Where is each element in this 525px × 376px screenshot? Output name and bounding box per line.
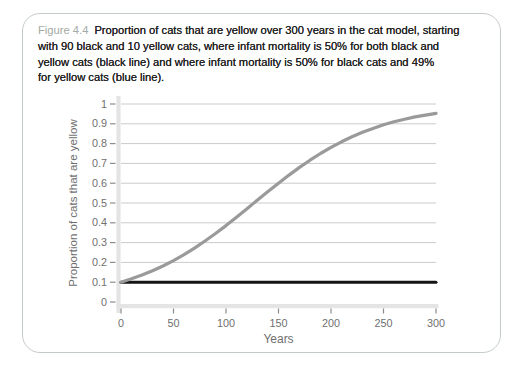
series-line-blue: [121, 113, 436, 282]
figure-number-label: Figure 4.4: [38, 24, 88, 36]
y-tick-label: 0: [101, 296, 107, 308]
y-tick-label: 0.2: [92, 256, 107, 268]
figure-caption: Figure 4.4Proportion of cats that are ye…: [23, 14, 500, 86]
line-chart: 00.10.20.30.40.50.60.70.80.9105010015020…: [31, 93, 494, 350]
y-tick-label: 0.3: [92, 236, 107, 248]
y-tick-label: 1: [101, 98, 107, 110]
y-tick-label: 0.9: [92, 117, 107, 129]
figure-panel: Figure 4.4Proportion of cats that are ye…: [22, 13, 501, 353]
chart: 00.10.20.30.40.50.60.70.80.9105010015020…: [31, 93, 494, 350]
x-tick-label: 200: [322, 317, 340, 329]
x-tick-label: 100: [217, 317, 235, 329]
x-axis-line: [116, 304, 438, 308]
x-axis-title: Years: [263, 332, 293, 346]
y-tick-label: 0.7: [92, 157, 107, 169]
x-tick-label: 50: [167, 317, 179, 329]
y-tick-label: 0.8: [92, 137, 107, 149]
x-tick-label: 250: [374, 317, 392, 329]
figure-caption-text: Proportion of cats that are yellow over …: [38, 24, 459, 83]
y-tick-label: 0.6: [92, 177, 107, 189]
x-tick-label: 150: [269, 317, 287, 329]
x-tick-label: 300: [427, 317, 445, 329]
y-axis-title: Proportion of cats that are yellow: [67, 119, 79, 287]
y-tick-label: 0.4: [92, 216, 107, 228]
y-tick-label: 0.1: [92, 276, 107, 288]
y-axis-line: [116, 96, 120, 313]
x-tick-label: 0: [118, 317, 124, 329]
y-tick-label: 0.5: [92, 197, 107, 209]
